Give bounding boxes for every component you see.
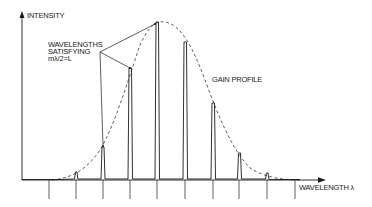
gain-profile-label: GAIN PROFILE [212, 76, 262, 84]
y-axis-arrow-icon [20, 11, 25, 18]
wavelength-ticks [49, 180, 295, 199]
x-axis-arrow-icon [318, 177, 326, 183]
leader-dot [102, 145, 104, 147]
leader-dot [154, 23, 156, 25]
gain-profile-diagram [0, 0, 372, 207]
y-axis-label: INTENSITY [27, 12, 64, 20]
x-axis-label: WAVELENGTH λ [299, 184, 354, 192]
leader-dot [129, 67, 131, 69]
annotation-leaders [100, 24, 155, 146]
annotation-line-3: mλ/2=L [48, 55, 72, 63]
